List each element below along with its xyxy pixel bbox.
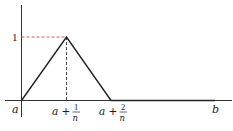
- x-label-peak-denominator: n: [73, 113, 78, 123]
- x-label-peak-base: a +: [52, 105, 70, 117]
- x-label-peak-numerator: 1: [74, 102, 78, 112]
- x-label-end-numerator: 2: [121, 102, 125, 112]
- x-label-b: b: [212, 103, 219, 116]
- x-label-a: a: [12, 103, 19, 116]
- x-label-end-base: a +: [99, 105, 117, 117]
- x-label-end-denominator: n: [120, 113, 125, 123]
- y-tick-one: 1: [12, 31, 18, 43]
- tent-curve: [22, 37, 216, 101]
- tent-function-diagram: 1 a a + 1 n a + 2 n b: [0, 0, 233, 131]
